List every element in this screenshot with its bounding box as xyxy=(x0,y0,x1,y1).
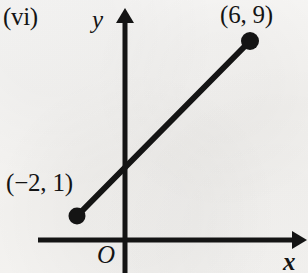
y-axis xyxy=(116,8,134,273)
x-axis-label: x xyxy=(283,249,296,273)
y-axis-arrow-icon xyxy=(116,8,134,23)
line-segment xyxy=(77,41,250,216)
data-point-marker-a xyxy=(69,208,86,225)
origin-label: O xyxy=(97,242,115,267)
coordinate-plot xyxy=(0,0,308,273)
part-label: (vi) xyxy=(3,4,38,29)
point-a-coordinate-label: (−2, 1) xyxy=(6,170,73,195)
data-point-marker-b xyxy=(241,32,259,50)
y-axis-label: y xyxy=(92,7,103,32)
figure-container: (vi) y x O (−2, 1) (6, 9) xyxy=(0,0,308,273)
point-b-coordinate-label: (6, 9) xyxy=(220,2,273,27)
x-axis-arrow-icon xyxy=(292,231,307,249)
x-axis xyxy=(38,231,307,249)
